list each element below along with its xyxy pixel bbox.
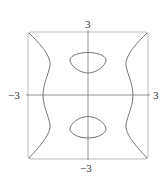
x-min-label: −3 [8,90,20,101]
curve-right-branch [126,33,147,158]
y-min-label: −3 [80,163,92,174]
x-max-label: 3 [153,90,159,101]
implicit-curve-plot [0,0,167,184]
curve-left-branch [29,33,50,158]
y-max-label: 3 [85,19,91,30]
